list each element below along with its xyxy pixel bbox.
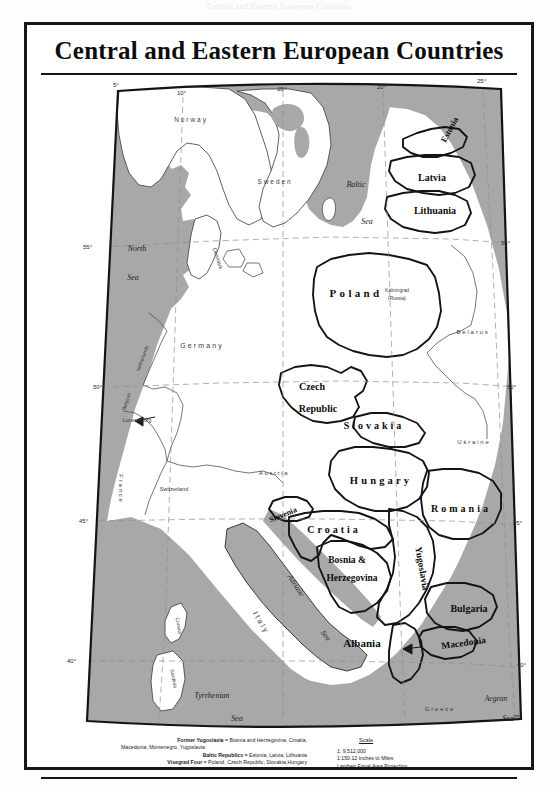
scale-inches: 1:150.12 Inches to Miles bbox=[337, 755, 527, 763]
water-label-baltic: Baltic bbox=[346, 180, 366, 189]
lat-label-left-55: 55° bbox=[83, 244, 93, 250]
legend-row: Former Yugoslavia = Bosnia and Herzegovi… bbox=[57, 737, 307, 752]
lat-label-right-55: 55° bbox=[501, 240, 511, 246]
legend-eq: = bbox=[204, 759, 207, 765]
country-label-germany: Germany bbox=[180, 342, 224, 350]
europe-map-svg[interactable]: 5° 10° 15° 20° 25° 10° 15° 20° 25° 55° 5… bbox=[31, 69, 531, 729]
lon-label-top-25: 25° bbox=[477, 78, 487, 84]
gotland-island bbox=[322, 198, 335, 221]
lat-label-left-50: 50° bbox=[93, 384, 103, 390]
lon-label-bot-10: 10° bbox=[153, 728, 163, 729]
map-body bbox=[31, 69, 531, 729]
lon-label-bot-20: 20° bbox=[399, 728, 409, 729]
country-label-ukraine: Ukraine bbox=[457, 439, 490, 445]
focus-label-bulgaria: Bulgaria bbox=[450, 603, 487, 614]
bottom-divider bbox=[41, 777, 517, 779]
lon-label-bot-25: 25° bbox=[513, 714, 523, 720]
country-label-kaliningrad: Kaliningrad bbox=[385, 288, 409, 293]
focus-label-herzegovina: Herzegovina bbox=[326, 573, 377, 583]
lon-label-top-15: 15° bbox=[277, 86, 287, 92]
legend-row: Baltic Republics = Estonia, Latvia, Lith… bbox=[57, 752, 307, 759]
country-label-russia: (Russia) bbox=[388, 296, 406, 301]
focus-label-lithuania: Lithuania bbox=[414, 205, 456, 216]
lat-label-right-50: 50° bbox=[507, 384, 517, 390]
legend-eq: = bbox=[225, 737, 228, 743]
lon-label-top-10: 10° bbox=[177, 90, 187, 96]
focus-label-hungary: Hungary bbox=[350, 475, 412, 486]
legend-term: Visegrad Four bbox=[167, 759, 202, 765]
legend-definition: Estonia, Latvia, Lithuania bbox=[249, 752, 307, 758]
map-plate: 5° 10° 15° 20° 25° 10° 15° 20° 25° 55° 5… bbox=[31, 69, 531, 729]
legend-definitions: Former Yugoslavia = Bosnia and Herzegovi… bbox=[57, 737, 307, 767]
focus-label-slovakia: Slovakia bbox=[344, 420, 405, 431]
legend-definition: Bosnia and Herzegovina, Croatia, bbox=[229, 737, 307, 743]
lat-label-left-45: 45° bbox=[79, 518, 89, 524]
country-label-france: France bbox=[118, 474, 124, 503]
focus-label-latvia: Latvia bbox=[418, 172, 446, 183]
focus-label-czech: Czech bbox=[299, 381, 326, 392]
water-label-north: North bbox=[127, 244, 147, 253]
country-label-luxembourg: Luxembourg bbox=[123, 417, 152, 423]
lat-label-right-40: 40° bbox=[517, 662, 527, 668]
water-label-sea: Sea bbox=[231, 714, 243, 723]
focus-label-poland: Poland bbox=[330, 287, 383, 299]
poster-frame: Central and Eastern European Countries bbox=[24, 22, 534, 770]
country-label-belarus: Belarus bbox=[457, 329, 490, 335]
legend-definition: Poland, Czech Republic, Slovakia,Hungary bbox=[208, 759, 307, 765]
scale-heading: Scale bbox=[359, 737, 527, 745]
water-label-sea: Sea bbox=[503, 714, 514, 723]
water-label-sea: Sea bbox=[127, 273, 139, 282]
scale-block: Scale 1: 9,512,000 1:150.12 Inches to Mi… bbox=[337, 737, 527, 770]
country-label-austria: Austria bbox=[259, 470, 289, 476]
lon-label-top-20: 20° bbox=[377, 84, 387, 90]
water-label-aegean: Aegean bbox=[484, 694, 508, 703]
lat-label-right-45: 45° bbox=[513, 520, 523, 526]
lon-label-top-5: 5° bbox=[113, 82, 119, 88]
lat-label-left-40: 40° bbox=[67, 658, 77, 664]
focus-label-albania: Albania bbox=[343, 637, 381, 649]
focus-label-republic: Republic bbox=[299, 403, 338, 414]
legend-eq: = bbox=[245, 752, 248, 758]
map-legend: Former Yugoslavia = Bosnia and Herzegovi… bbox=[37, 737, 527, 769]
page-title: Central and Eastern European Countries bbox=[27, 37, 531, 65]
scale-projection: Lambert Equal Area Projection bbox=[337, 763, 527, 771]
legend-row: Visegrad Four = Poland, Czech Republic, … bbox=[57, 759, 307, 766]
water-label-sea: Sea bbox=[361, 217, 373, 226]
country-label-switzerland: Switzerland bbox=[160, 486, 188, 492]
faint-page-header: Central and Eastern European Countries bbox=[0, 2, 558, 11]
scale-ratio: 1: 9,512,000 bbox=[337, 748, 527, 756]
focus-label-romania: Romania bbox=[431, 503, 491, 514]
focus-label-bosnia: Bosnia & bbox=[328, 555, 366, 565]
country-label-greece: Greece bbox=[425, 706, 455, 712]
page-root: Central and Eastern European Countries C… bbox=[0, 0, 558, 792]
country-label-sweden: Sweden bbox=[257, 178, 292, 185]
legend-term: Baltic Republics bbox=[203, 752, 243, 758]
focus-label-croatia: Croatia bbox=[307, 524, 361, 535]
legend-term: Former Yugoslavia bbox=[177, 737, 223, 743]
legend-definition-cont: Macedonia, Montenegro, Yugoslavia bbox=[57, 744, 307, 751]
country-label-norway: Norway bbox=[174, 116, 208, 124]
water-label-tyrrhenian: Tyrrhenian bbox=[194, 691, 229, 700]
